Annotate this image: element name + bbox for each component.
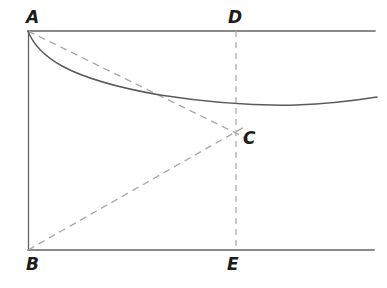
vertex-label-e: E: [227, 256, 239, 273]
dashed-line-b-to-c: [28, 126, 246, 250]
dashed-line-a-to-c: [28, 31, 248, 139]
diagram-svg: [0, 0, 387, 288]
vertex-label-a: A: [26, 9, 39, 26]
solid-curve: [28, 31, 377, 105]
vertex-label-b: B: [26, 256, 39, 273]
diagram-canvas: A D C B E: [0, 0, 387, 288]
vertex-label-d: D: [228, 9, 242, 26]
vertex-label-c: C: [243, 130, 255, 147]
